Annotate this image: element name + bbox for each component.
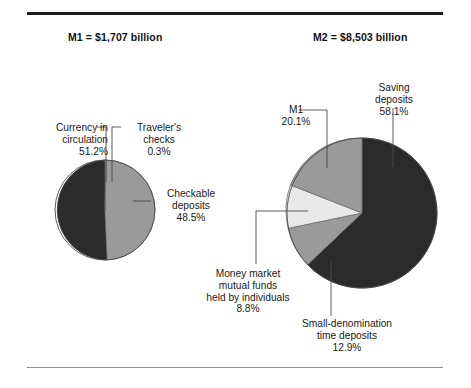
label-money-market-mutual-funds: Money market mutual funds held by indivi… — [192, 268, 304, 315]
slice-currency-in-circulation[interactable] — [57, 160, 107, 260]
pie-chart-m1 — [55, 160, 155, 260]
figure-container: M1 = $1,707 billion M2 = $8,503 billion — [0, 0, 471, 388]
label-currency-in-circulation: Currency in circulation 51.2% — [16, 122, 108, 157]
label-checkable-deposits: Checkable deposits 48.5% — [152, 188, 230, 223]
slice-checkable-deposits[interactable] — [105, 160, 155, 260]
label-saving-deposits: Saving deposits 58.1% — [358, 82, 430, 117]
pie-chart-m2 — [286, 138, 437, 288]
label-travelers-checks: Traveler's checks 0.3% — [122, 122, 196, 157]
label-small-denomination-time-deposits: Small-denomination time deposits 12.9% — [288, 318, 406, 353]
label-m1-slice: M1 20.1% — [272, 104, 320, 128]
